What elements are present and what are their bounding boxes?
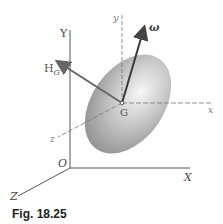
- Z-axis-line: [18, 168, 70, 196]
- figure-caption: Fig. 18.25: [12, 207, 67, 221]
- HG-label-main: H: [44, 62, 54, 75]
- omega-label: ω: [149, 22, 159, 33]
- center-label: G: [120, 108, 128, 118]
- diagram-canvas: [0, 0, 223, 224]
- Y-axis-label: Y: [60, 28, 67, 39]
- HG-label-sub: G: [54, 68, 60, 77]
- HG-label: HG: [44, 63, 60, 77]
- x-body-label: x: [208, 106, 213, 115]
- origin-label: O: [58, 158, 67, 169]
- y-body-label: y: [113, 13, 119, 23]
- rigid-body-ellipsoid: [67, 38, 189, 169]
- X-axis-label: X: [184, 172, 192, 183]
- z-body-label: z: [50, 135, 55, 144]
- center-of-mass-point: [120, 101, 124, 105]
- figure-18-25: Y X Z O y x z G ω HG Fig. 18.25: [0, 0, 223, 224]
- Z-axis-label: Z: [10, 191, 18, 202]
